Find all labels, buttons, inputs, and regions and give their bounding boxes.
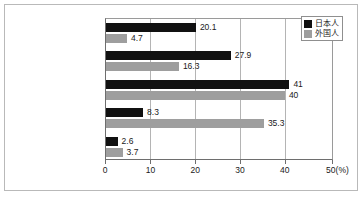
bar-foreigner — [106, 119, 264, 128]
tick-mark-40 — [285, 160, 286, 164]
x-axis-tick-label: 30 — [235, 165, 244, 175]
plot-area: とても強く感じる 20.1 4.7 かなり感じる 27.9 16.3 あまり感じ… — [105, 18, 333, 160]
legend-label: 外国人 — [315, 29, 339, 38]
bar-group: まったく感じない 8.3 35.3 — [106, 104, 332, 132]
bar-value-foreigner: 3.7 — [127, 148, 139, 157]
bar-japanese — [106, 80, 289, 89]
bar-japanese — [106, 23, 196, 32]
tick-mark-20 — [195, 160, 196, 164]
legend-swatch-icon — [304, 20, 312, 28]
bar-foreigner — [106, 148, 123, 157]
bar-value-japanese: 20.1 — [200, 23, 217, 32]
bar-value-japanese: 41 — [293, 80, 302, 89]
x-axis-tick-label: 20 — [190, 165, 199, 175]
tick-mark-30 — [240, 160, 241, 164]
bar-foreigner — [106, 91, 285, 100]
legend-item-japanese: 日本人 — [304, 19, 339, 28]
tick-mark-50 — [332, 160, 333, 164]
bar-group: あまり感じない 41 40 — [106, 76, 332, 104]
bar-group: とても強く感じる 20.1 4.7 — [106, 19, 332, 47]
bar-value-foreigner: 40 — [289, 91, 298, 100]
bar-foreigner — [106, 34, 127, 43]
bar-value-japanese: 8.3 — [147, 108, 159, 117]
tick-mark-0 — [105, 160, 106, 164]
bar-japanese — [106, 108, 143, 117]
bar-group: かなり感じる 27.9 16.3 — [106, 47, 332, 75]
legend: 日本人 外国人 — [301, 16, 343, 41]
bar-value-japanese: 27.9 — [235, 51, 252, 60]
bar-japanese — [106, 51, 231, 60]
legend-item-foreigner: 外国人 — [304, 29, 339, 38]
tick-mark-10 — [150, 160, 151, 164]
x-axis-tick-label: 40 — [280, 165, 289, 175]
x-axis-tick-label: 0 — [103, 165, 108, 175]
bar-value-foreigner: 16.3 — [183, 62, 200, 71]
legend-label: 日本人 — [315, 19, 339, 28]
chart-frame: とても強く感じる 20.1 4.7 かなり感じる 27.9 16.3 あまり感じ… — [4, 4, 358, 191]
x-axis-unit-label: 50(%) — [326, 165, 349, 175]
bar-value-japanese: 2.6 — [122, 137, 134, 146]
bar-value-foreigner: 35.3 — [268, 119, 285, 128]
legend-swatch-icon — [304, 30, 312, 38]
bar-group: 不詳 2.6 3.7 — [106, 133, 332, 161]
bar-japanese — [106, 137, 118, 146]
x-axis-tick-label: 10 — [146, 165, 155, 175]
bar-value-foreigner: 4.7 — [131, 34, 143, 43]
bar-foreigner — [106, 62, 179, 71]
